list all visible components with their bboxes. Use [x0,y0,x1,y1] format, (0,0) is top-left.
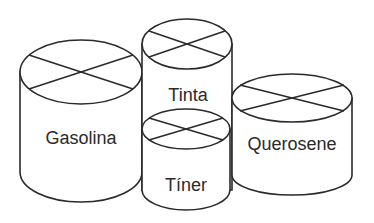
cylinders-diagram: Gasolina Tinta Tíner Querosene [0,0,374,223]
label-tiner: Tíner [165,175,207,195]
cylinder-tiner: Tíner [142,109,230,210]
diagram-canvas: Gasolina Tinta Tíner Querosene [0,0,374,223]
label-querosene: Querosene [247,134,336,154]
label-tinta: Tinta [168,85,208,105]
cylinder-querosene: Querosene [232,74,352,195]
label-gasolina: Gasolina [45,128,117,148]
cylinder-gasolina: Gasolina [20,40,142,202]
